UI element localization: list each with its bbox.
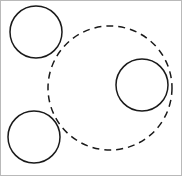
top-left-solid-circle	[10, 6, 62, 58]
diagram-svg	[0, 0, 182, 176]
figure-frame	[1, 1, 182, 176]
bottom-left-solid-circle	[8, 111, 60, 163]
large-dashed-circle	[48, 26, 172, 150]
right-solid-circle	[116, 59, 168, 111]
figure-canvas	[0, 0, 182, 176]
